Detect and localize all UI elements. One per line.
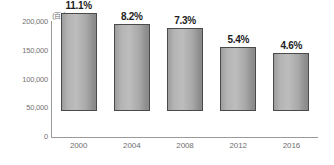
x-axis-tick-label: 2016: [265, 141, 317, 150]
bar-value-label: 7.3%: [159, 15, 211, 26]
bar[interactable]: [220, 47, 256, 111]
x-axis-tick-label: 2004: [106, 141, 158, 150]
y-axis-tick-label: 0: [2, 132, 48, 141]
bar-slot: 8.2%: [114, 8, 150, 111]
x-axis-tick-label: 2012: [212, 141, 264, 150]
y-axis-tick-label: 100,000: [2, 75, 48, 84]
y-axis-tick-labels: 200,000150,000100,00050,0000: [0, 0, 48, 165]
bar[interactable]: [273, 53, 309, 111]
bar[interactable]: [114, 24, 150, 111]
bar-slot: 11.1%: [61, 0, 97, 111]
bar-value-label: 5.4%: [212, 34, 264, 45]
bar-value-label: 8.2%: [106, 11, 158, 22]
bar-value-label: 11.1%: [53, 0, 105, 11]
y-axis-tick-label: 200,000: [2, 17, 48, 26]
bar[interactable]: [167, 28, 203, 111]
y-axis-tick-label: 50,000: [2, 103, 48, 112]
x-axis-tick-labels: 20002004200820122016: [52, 141, 318, 157]
bar-slot: 4.6%: [273, 37, 309, 111]
x-axis-tick-label: 2000: [53, 141, 105, 150]
bar-value-label: 4.6%: [265, 40, 317, 51]
y-axis-tick-label: 150,000: [2, 46, 48, 55]
x-axis-tick-label: 2008: [159, 141, 211, 150]
bar-chart: (百人) 200,000150,000100,00050,0000 11.1%8…: [0, 0, 334, 165]
bar-slot: 7.3%: [167, 12, 203, 111]
bar-slot: 5.4%: [220, 31, 256, 111]
bar[interactable]: [61, 13, 97, 111]
bar-series: 11.1%8.2%7.3%5.4%4.6%: [52, 0, 318, 138]
